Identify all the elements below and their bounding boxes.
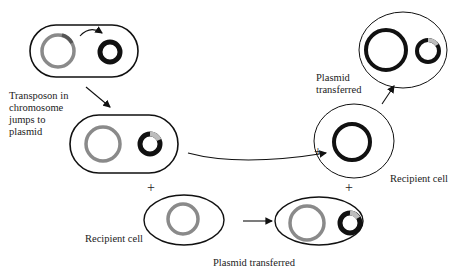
transposon-segment	[62, 35, 72, 43]
label-plasmid-transferred-bottom: Plasmid transferred	[213, 257, 295, 269]
chromosome-icon	[86, 127, 120, 161]
arrow-up-right	[382, 86, 394, 104]
transposon-in-plasmid	[150, 134, 159, 140]
recipient-cell-with-plasmid-bottom	[275, 197, 363, 245]
label-recipient-cell-bottom: Recipient cell	[85, 233, 143, 245]
transposon-in-plasmid	[428, 40, 437, 45]
donor-cell-after-jump	[70, 115, 178, 173]
jump-arrow	[80, 30, 102, 36]
recipient-cell-right	[314, 104, 394, 178]
plus-sign-middle: +	[314, 146, 322, 158]
chromosome-icon	[290, 206, 324, 240]
recipient-cell-bottom	[144, 195, 224, 245]
plasmid-icon	[100, 42, 120, 62]
chromosome-icon	[334, 124, 370, 160]
label-plasmid-transferred-top: Plasmid transferred	[316, 72, 361, 96]
recipient-cell-with-plasmid-top	[359, 12, 447, 88]
donor-cell-initial	[30, 25, 138, 77]
plus-sign-right: +	[345, 182, 353, 194]
plus-sign-left: +	[147, 182, 155, 194]
transposon-in-plasmid	[350, 213, 358, 218]
chromosome-icon	[168, 204, 198, 234]
arrow-to-recipient-right	[188, 153, 326, 160]
label-recipient-cell-right: Recipient cell	[390, 173, 448, 185]
diagram-canvas	[0, 0, 461, 269]
chromosome-icon	[366, 30, 406, 70]
arrow-down-right	[86, 87, 110, 107]
label-transposon-jump: Transposon in chromosome jumps to plasmi…	[9, 90, 68, 138]
